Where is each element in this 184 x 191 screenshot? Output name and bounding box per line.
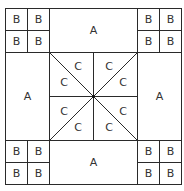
label-c: C: [74, 60, 82, 73]
label-b: B: [145, 167, 153, 180]
quilt-block-diagram: B B B B B B B B B B B B B B B B A A A A …: [0, 0, 184, 191]
center-point: [92, 95, 95, 98]
label-a-top: A: [90, 24, 98, 37]
label-b: B: [35, 145, 43, 158]
label-b: B: [35, 167, 43, 180]
label-b: B: [35, 35, 43, 48]
label-c: C: [74, 121, 82, 134]
label-a-bottom: A: [90, 156, 98, 169]
label-c: C: [105, 60, 113, 73]
label-b: B: [167, 35, 175, 48]
label-b: B: [167, 13, 175, 26]
label-b: B: [145, 35, 153, 48]
label-b: B: [145, 13, 153, 26]
label-b: B: [13, 13, 21, 26]
label-c: C: [105, 121, 113, 134]
label-c: C: [119, 76, 127, 89]
label-b: B: [13, 145, 21, 158]
label-c: C: [119, 105, 127, 118]
label-b: B: [13, 167, 21, 180]
label-b: B: [167, 167, 175, 180]
label-b: B: [145, 145, 153, 158]
label-a-right: A: [156, 90, 164, 103]
label-c: C: [60, 76, 68, 89]
label-b: B: [35, 13, 43, 26]
label-c: C: [60, 105, 68, 118]
label-b: B: [13, 35, 21, 48]
label-b: B: [167, 145, 175, 158]
label-a-left: A: [24, 90, 32, 103]
